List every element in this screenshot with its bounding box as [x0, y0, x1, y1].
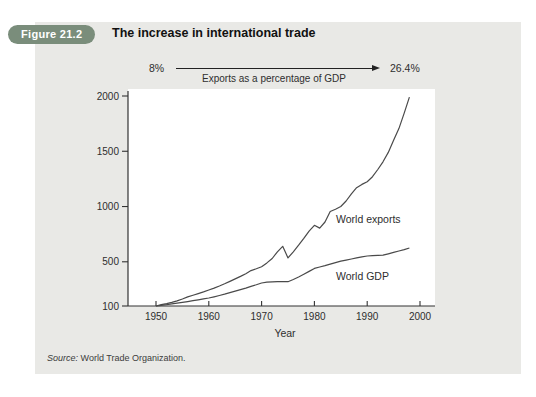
x-tick-label: 1980	[303, 311, 326, 322]
plot-area	[128, 89, 435, 306]
source-prefix: Source:	[47, 353, 78, 363]
source-note: Source: World Trade Organization.	[47, 353, 185, 363]
series-label: World GDP	[336, 270, 389, 282]
year-axis-label: Year	[274, 327, 296, 339]
series-label: World exports	[336, 213, 401, 225]
y-tick-label: 1000	[97, 201, 120, 212]
page: Figure 21.2 The increase in internationa…	[0, 0, 536, 397]
right-arrow-icon	[176, 68, 372, 69]
x-tick-label: 2000	[409, 311, 432, 322]
y-tick-label: 500	[102, 256, 119, 267]
x-tick-label: 1970	[250, 311, 273, 322]
arrow-start-label: 8%	[149, 62, 164, 74]
trade-chart: 1005001000150020001950196019701980199020…	[95, 85, 450, 345]
arrow-caption: Exports as a percentage of GDP	[172, 73, 376, 84]
figure-badge: Figure 21.2	[8, 25, 95, 44]
x-tick-label: 1990	[356, 311, 379, 322]
y-tick-label: 1500	[97, 146, 120, 157]
source-text: World Trade Organization.	[81, 353, 186, 363]
y-tick-label: 2000	[97, 91, 120, 102]
figure-badge-label: Figure 21.2	[21, 28, 82, 40]
arrow-end-label: 26.4%	[390, 62, 420, 74]
x-tick-label: 1950	[145, 311, 168, 322]
y-tick-label: 100	[102, 301, 119, 312]
x-tick-label: 1960	[198, 311, 221, 322]
figure-title: The increase in international trade	[112, 26, 316, 40]
